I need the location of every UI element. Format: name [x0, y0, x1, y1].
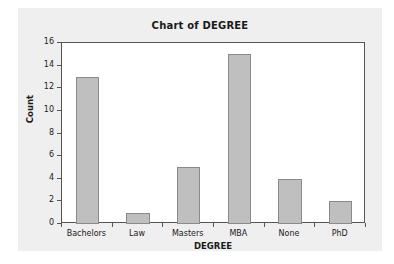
bar-masters	[177, 167, 200, 224]
x-axis-title: DEGREE	[61, 241, 365, 251]
x-axis-tick-mark	[112, 223, 113, 227]
x-axis-tick-mark	[314, 223, 315, 227]
x-axis-tick-label: Bachelors	[61, 229, 112, 238]
x-axis-tick-mark	[365, 223, 366, 227]
chart-title: Chart of DEGREE	[18, 20, 382, 31]
x-axis-tick-mark	[264, 223, 265, 227]
y-axis-tick-label: 16	[44, 37, 54, 46]
x-axis-tick-mark	[162, 223, 163, 227]
y-axis-title: Count	[25, 79, 35, 139]
bar-bachelors	[76, 77, 99, 224]
x-axis-tick-mark	[213, 223, 214, 227]
y-axis-tick-label: 12	[44, 82, 54, 91]
y-axis-tick-label: 6	[49, 150, 54, 159]
y-axis-tick-label: 14	[44, 60, 54, 69]
y-axis-tick-label: 4	[49, 173, 54, 182]
y-axis-tick-label: 10	[44, 105, 54, 114]
y-axis-tick-label: 8	[49, 128, 54, 137]
bar-phd	[329, 201, 352, 224]
x-axis-tick-label: None	[264, 229, 315, 238]
y-axis-tick-label: 2	[49, 195, 54, 204]
x-axis-tick-mark	[61, 223, 62, 227]
bar-law	[126, 213, 149, 224]
bar-none	[278, 179, 301, 224]
x-axis-tick-label: Masters	[162, 229, 213, 238]
y-axis-tick-label: 0	[49, 218, 54, 227]
plot-area	[61, 42, 365, 223]
x-axis-tick-label: MBA	[213, 229, 264, 238]
x-axis-tick-label: Law	[112, 229, 163, 238]
bar-mba	[228, 54, 251, 224]
chart-card: Chart of DEGREE Count 0246810121416 Bach…	[18, 8, 382, 251]
x-axis-tick-label: PhD	[314, 229, 365, 238]
